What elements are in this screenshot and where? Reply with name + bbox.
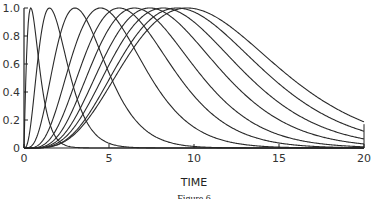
y-tick-label: 0 xyxy=(13,142,20,155)
y-tick-label: 1.0 xyxy=(3,2,21,15)
x-tick-label: 20 xyxy=(357,152,371,165)
x-tick-label: 10 xyxy=(187,152,201,165)
chart: 0510152000.20.40.60.81.0 TIME Figure 6 xyxy=(0,0,375,199)
curves xyxy=(24,8,364,148)
x-axis-title: TIME xyxy=(180,176,207,189)
x-tick-label: 15 xyxy=(272,152,286,165)
y-tick-label: 0.2 xyxy=(3,114,21,127)
figure-caption: Figure 6 xyxy=(177,193,211,199)
x-tick-label: 5 xyxy=(106,152,113,165)
y-tick-label: 0.4 xyxy=(3,86,21,99)
x-tick-label: 0 xyxy=(21,152,28,165)
y-tick-label: 0.6 xyxy=(3,58,21,71)
y-tick-label: 0.8 xyxy=(3,30,21,43)
